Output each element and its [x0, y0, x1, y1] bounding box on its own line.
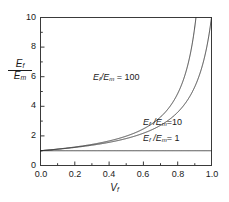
- y-tick-label-4: 4: [14, 101, 36, 110]
- annot-10-tail: =10: [167, 117, 182, 127]
- axes-frame: [40, 17, 212, 166]
- y-label-den-base: E: [14, 70, 21, 81]
- y-tick-label-10: 10: [14, 13, 36, 22]
- x-tick-label-0-8: 0.8: [163, 170, 193, 179]
- y-tick-label-8: 8: [14, 42, 36, 51]
- x-tick-label-0-6: 0.6: [128, 170, 158, 179]
- x-label-base: V: [110, 182, 117, 193]
- y-axis-label: Ef Em: [5, 59, 35, 81]
- annot-10-mid: /E: [151, 117, 162, 127]
- annot-1-mid: /E: [151, 133, 162, 143]
- x-tick-label-0-0: 0.0: [26, 170, 56, 179]
- annotation-ratio-10: Ef /Em=10: [143, 118, 182, 127]
- y-label-num-sub: f: [22, 62, 24, 69]
- x-label-sub: f: [117, 186, 119, 193]
- annot-1-tail: = 1: [167, 133, 180, 143]
- y-axis-label-numerator: Ef: [5, 59, 35, 70]
- y-axis-ticks: [41, 18, 45, 166]
- annot-100-mid: /E: [101, 72, 110, 82]
- x-tick-label-1-0: 1.0: [197, 170, 227, 179]
- x-axis-label: Vf: [0, 182, 229, 193]
- annot-100-tail: = 100: [114, 72, 139, 82]
- x-tick-label-0-4: 0.4: [94, 170, 124, 179]
- y-axis-label-denominator: Em: [5, 71, 35, 82]
- y-tick-label-2: 2: [14, 131, 36, 140]
- curve-ratio-10: [41, 18, 212, 151]
- x-tick-label-0-2: 0.2: [60, 170, 90, 179]
- y-label-den-sub: m: [21, 74, 27, 81]
- x-axis-ticks: [41, 162, 212, 166]
- annotation-ratio-1: Ef /Em= 1: [143, 134, 180, 143]
- chart-figure: 10 8 6 4 2 0 0.0 0.2 0.4 0.6 0.8 1.0 Ef …: [0, 0, 229, 202]
- annotation-ratio-100: Ef/Em = 100: [93, 73, 140, 82]
- y-tick-label-0: 0: [14, 161, 36, 170]
